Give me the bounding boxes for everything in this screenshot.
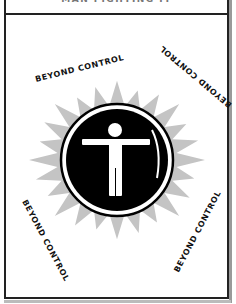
sun-emblem	[0, 0, 236, 304]
